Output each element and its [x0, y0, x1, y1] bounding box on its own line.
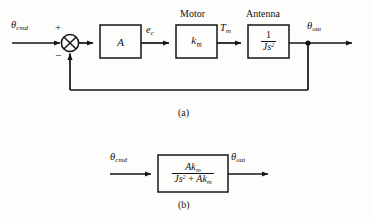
amplifier-block-content: A	[100, 25, 141, 58]
out-subscript: out	[236, 156, 245, 163]
antenna-transfer-fraction: 1 Js2	[261, 30, 276, 53]
cmd-subscript: cmd	[16, 24, 28, 31]
control-system-figure: θcmd + − A ec Motor km Tm Antenna 1 Js2 …	[0, 0, 372, 222]
minus-sign: −	[55, 50, 61, 61]
feedback-tap-dot	[305, 40, 310, 45]
caption-a: (a)	[178, 108, 189, 118]
error-signal-label: ec	[146, 25, 154, 37]
antenna-block-title: Antenna	[246, 9, 280, 19]
Js-glyph: Js	[263, 41, 271, 52]
m-subscript: m	[196, 41, 201, 49]
e-glyph: e	[146, 24, 151, 35]
T-glyph: T	[220, 22, 226, 33]
output-signal-label-b: θout	[231, 152, 245, 164]
antenna-numerator: 1	[261, 30, 276, 41]
plus-sign: +	[55, 22, 61, 33]
amplifier-gain-symbol: A	[117, 36, 124, 48]
Js-glyph: Js	[174, 173, 182, 184]
m-subscript: m	[226, 27, 231, 34]
antenna-denominator: Js2	[261, 41, 276, 53]
transfer-denominator: Js2 + Akm	[172, 173, 214, 185]
motor-block-content: km	[176, 25, 217, 58]
caption-b: (b)	[178, 200, 190, 210]
torque-signal-label: Tm	[220, 23, 231, 35]
Akm-base: Ak	[185, 161, 196, 172]
Akm-base: Ak	[196, 173, 207, 184]
m-subscript: m	[196, 166, 201, 173]
transfer-function-block-content: Akm Js2 + Akm	[158, 155, 228, 192]
exponent-two: 2	[271, 41, 274, 48]
c-subscript: c	[151, 29, 154, 36]
m-subscript: m	[207, 178, 212, 185]
cmd-subscript: cmd	[115, 156, 127, 163]
input-signal-label-a: θcmd	[11, 20, 28, 32]
closed-loop-transfer-fraction: Akm Js2 + Akm	[172, 162, 214, 185]
output-signal-label-a: θout	[307, 21, 321, 33]
out-subscript: out	[312, 25, 321, 32]
transfer-numerator: Akm	[172, 162, 214, 173]
antenna-block-content: 1 Js2	[248, 25, 289, 58]
motor-block-title: Motor	[180, 9, 205, 19]
input-signal-label-b: θcmd	[110, 152, 127, 164]
